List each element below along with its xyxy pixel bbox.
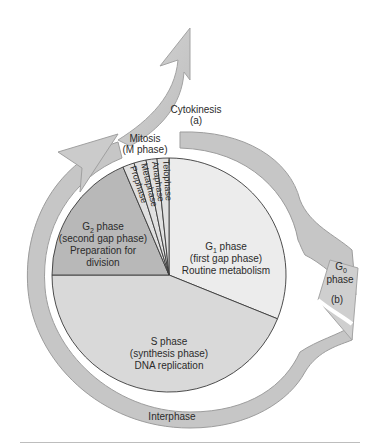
mitosis-label: Mitosis [129,133,160,144]
s-line2: (synthesis phase) [130,348,208,359]
cell-cycle-diagram: Prophase Metaphase Anaphase Telophase Cy… [0,0,372,448]
interphase-label: Interphase [148,411,196,422]
s-line1: S phase [151,336,188,347]
mitosis-sublabel: (M phase) [122,144,167,155]
g0-line2: phase [326,274,354,285]
g1-line3: Routine metabolism [182,265,270,276]
cytokinesis-arrow [118,28,190,146]
cytokinesis-tag: (a) [190,115,202,126]
g1-line2: (first gap phase) [190,253,262,264]
g2-line2: (second gap phase) [59,233,147,244]
cytokinesis-label: Cytokinesis [170,104,221,115]
s-line3: DNA replication [135,360,204,371]
divider [20,442,360,443]
g2-line3: Preparation for [70,245,137,256]
g2-line4: division [86,257,119,268]
g0-tag: (b) [331,294,343,305]
